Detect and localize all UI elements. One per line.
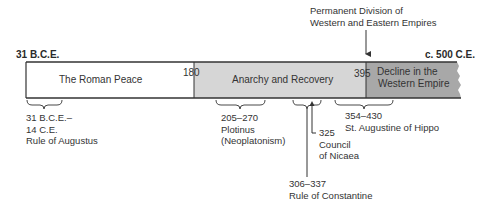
brace-augustine — [335, 100, 393, 109]
constantine-label: Rule of Constantine — [289, 190, 372, 202]
augustus-label: Rule of Augustus — [26, 135, 98, 147]
event-augustine: 354–430 St. Augustine of Hippo — [345, 110, 439, 133]
nicaea-label-2: of Nicaea — [319, 150, 359, 162]
annotation-line-1: Permanent Division of — [310, 5, 437, 17]
nicaea-label-1: Council — [319, 139, 359, 151]
year-180: 180 — [183, 67, 200, 79]
brace-constantine — [293, 100, 321, 109]
event-plotinus: 205–270 Plotinus (Neoplatonism) — [221, 112, 285, 147]
event-constantine: 306–337 Rule of Constantine — [289, 178, 372, 201]
year-395: 395 — [354, 68, 371, 80]
decline-line-2: Western Empire — [377, 78, 450, 90]
brace-augustus — [27, 100, 62, 109]
plotinus-dates: 205–270 — [221, 112, 285, 124]
segment-label-roman-peace: The Roman Peace — [59, 74, 142, 86]
timeline-graphic — [0, 0, 495, 210]
constantine-dates: 306–337 — [289, 178, 372, 190]
plotinus-label-1: Plotinus — [221, 124, 285, 136]
augustine-label: St. Augustine of Hippo — [345, 122, 439, 134]
decline-line-1: Decline in the — [377, 66, 450, 78]
nicaea-arrow-icon — [310, 101, 315, 106]
start-date-label: 31 B.C.E. — [16, 49, 59, 60]
augustus-dates-2: 14 C.E. — [26, 124, 98, 136]
segment-label-decline: Decline in the Western Empire — [377, 66, 450, 90]
annotation-line-2: Western and Eastern Empires — [310, 17, 437, 29]
end-date-label: c. 500 C.E. — [425, 49, 475, 60]
brace-plotinus — [216, 100, 265, 109]
permanent-division-annotation: Permanent Division of Western and Easter… — [310, 5, 437, 28]
event-augustus: 31 B.C.E.– 14 C.E. Rule of Augustus — [26, 112, 98, 147]
segment-label-anarchy-recovery: Anarchy and Recovery — [232, 74, 333, 86]
augustus-dates-1: 31 B.C.E.– — [26, 112, 98, 124]
augustine-dates: 354–430 — [345, 110, 439, 122]
plotinus-label-2: (Neoplatonism) — [221, 135, 285, 147]
